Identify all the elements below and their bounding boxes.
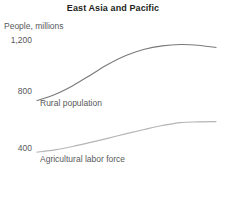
plot-area [0, 0, 226, 201]
line-series-rural-population [37, 44, 216, 100]
line-series-agricultural-labor-force [37, 122, 216, 153]
chart-figure: East Asia and Pacific People, millions 1… [0, 0, 226, 201]
series-label-agricultural-labor-force: Agricultural labor force [40, 154, 125, 164]
series-label-rural-population: Rural population [40, 98, 102, 108]
